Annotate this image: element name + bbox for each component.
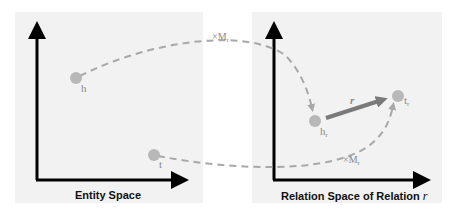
diagram-canvas: h t hr tr r ×Mr ×Mr <box>0 0 456 215</box>
label-h-r: hr <box>320 125 329 139</box>
projection-curve-h <box>80 40 312 108</box>
label-h: h <box>81 82 87 94</box>
label-t: t <box>159 158 162 170</box>
label-projection-bottom: ×Mr <box>343 154 361 167</box>
label-projection-top: ×Mr <box>212 31 230 44</box>
relation-space-caption: Relation Space of Relation r <box>281 189 427 204</box>
label-t-r: tr <box>404 94 410 108</box>
point-t-r <box>392 90 404 102</box>
entity-space-caption: Entity Space <box>75 189 141 201</box>
label-relation-r: r <box>350 94 355 106</box>
